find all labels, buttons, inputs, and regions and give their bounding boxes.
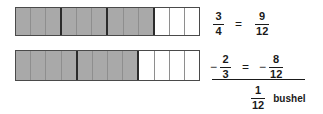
fraction-one-twelfth: 1 12 bbox=[250, 85, 266, 112]
bar-cell bbox=[170, 8, 185, 35]
equation-row-minuend: 3 4 = 9 12 bbox=[212, 11, 270, 38]
equation-row-result: 1 12 bushel bbox=[250, 85, 305, 112]
bar-cell bbox=[62, 51, 78, 80]
bar-cell bbox=[170, 51, 185, 80]
denominator: 12 bbox=[255, 26, 269, 38]
fraction-bar-top bbox=[15, 7, 200, 36]
bar-cell bbox=[124, 8, 139, 35]
bar-cell bbox=[123, 51, 139, 80]
equation-row-subtrahend: − 2 3 = − 8 12 bbox=[210, 54, 284, 81]
bar-cell bbox=[46, 51, 61, 80]
result-unit-label: bushel bbox=[266, 93, 305, 104]
equation-block: 3 4 = 9 12 − 2 3 = − 8 12 1 bbox=[210, 0, 323, 114]
numerator: 8 bbox=[272, 54, 280, 66]
minus-sign: − bbox=[210, 61, 219, 73]
denominator: 12 bbox=[251, 100, 265, 112]
bar-cell bbox=[16, 51, 31, 80]
numerator: 2 bbox=[221, 54, 229, 66]
subtraction-rule-line bbox=[212, 79, 305, 80]
minus-sign-converted: − bbox=[259, 61, 268, 73]
fraction-bar-bottom bbox=[15, 50, 200, 81]
bar-cell bbox=[93, 51, 108, 80]
bar-cell bbox=[46, 8, 62, 35]
numerator: 9 bbox=[258, 11, 266, 23]
numerator: 1 bbox=[254, 85, 262, 97]
bar-cell bbox=[31, 51, 46, 80]
bar-cell bbox=[16, 8, 31, 35]
bar-cell bbox=[108, 8, 123, 35]
bar-cell bbox=[62, 8, 77, 35]
bar-cell bbox=[155, 8, 170, 35]
denominator: 4 bbox=[214, 26, 222, 38]
numerator: 3 bbox=[214, 11, 222, 23]
equals-sign: = bbox=[232, 18, 245, 30]
fraction-two-thirds: 2 3 bbox=[219, 54, 232, 81]
fraction-three-fourths: 3 4 bbox=[212, 11, 225, 38]
bar-cell bbox=[185, 8, 199, 35]
bar-cell bbox=[139, 51, 154, 80]
equals-sign: = bbox=[239, 61, 252, 73]
bar-cell bbox=[77, 8, 92, 35]
fraction-nine-twelfths: 9 12 bbox=[254, 11, 270, 38]
bar-cell bbox=[31, 8, 46, 35]
bar-cell bbox=[108, 51, 123, 80]
bar-cell bbox=[78, 51, 93, 80]
fraction-eight-twelfths: 8 12 bbox=[268, 54, 284, 81]
bar-cell bbox=[92, 8, 108, 35]
bar-cell bbox=[155, 51, 170, 80]
bar-cell bbox=[185, 51, 199, 80]
bar-cell bbox=[139, 8, 155, 35]
